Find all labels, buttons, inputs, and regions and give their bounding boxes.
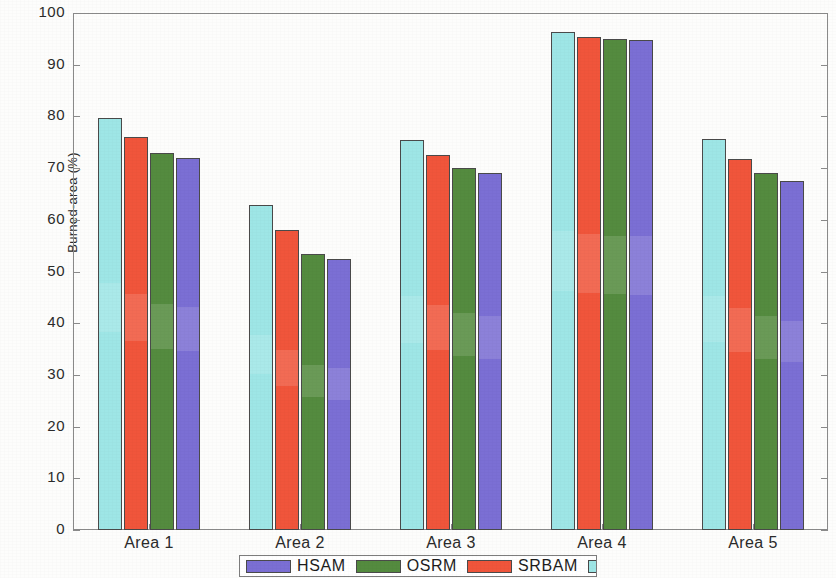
bar-chart-figure: Burned-area (%) 0102030405060708090100 A… xyxy=(0,0,836,578)
chart-legend: HSAMOSRMSRBAMSTI xyxy=(239,555,597,577)
y-tick-mark-right xyxy=(821,478,828,479)
y-tick-mark xyxy=(73,13,80,14)
bar-sti-area-5 xyxy=(702,139,726,530)
bar-osrm-area-5 xyxy=(754,173,778,530)
legend-swatch-hsam-icon xyxy=(246,560,291,573)
y-tick-mark-right xyxy=(821,13,828,14)
y-tick-mark-right xyxy=(821,65,828,66)
legend-item-srbam[interactable]: SRBAM xyxy=(467,557,578,575)
bar-srbam-area-1 xyxy=(124,137,148,530)
legend-label: HSAM xyxy=(297,557,346,575)
legend-item-hsam[interactable]: HSAM xyxy=(246,557,346,575)
bar-hsam-area-3 xyxy=(478,173,502,530)
y-tick-mark xyxy=(73,375,80,376)
x-tick-label-area-3: Area 3 xyxy=(381,534,521,552)
y-tick-label: 10 xyxy=(25,468,65,485)
y-tick-label: 60 xyxy=(25,210,65,227)
bar-hsam-area-1 xyxy=(176,158,200,530)
y-tick-label: 0 xyxy=(25,520,65,537)
y-tick-label: 50 xyxy=(25,262,65,279)
y-tick-mark-right xyxy=(821,375,828,376)
bar-srbam-area-3 xyxy=(426,155,450,530)
y-tick-mark xyxy=(73,427,80,428)
bar-sti-area-1 xyxy=(98,118,122,530)
y-tick-mark xyxy=(73,323,80,324)
y-tick-label: 40 xyxy=(25,313,65,330)
y-tick-label: 90 xyxy=(25,55,65,72)
y-tick-mark-right xyxy=(821,116,828,117)
y-tick-mark-right xyxy=(821,530,828,531)
y-tick-mark-right xyxy=(821,427,828,428)
y-tick-label: 70 xyxy=(25,158,65,175)
y-tick-label: 30 xyxy=(25,365,65,382)
bar-hsam-area-4 xyxy=(629,40,653,530)
bar-srbam-area-5 xyxy=(728,159,752,530)
x-tick-label-area-2: Area 2 xyxy=(230,534,370,552)
y-tick-mark xyxy=(73,478,80,479)
bar-sti-area-3 xyxy=(400,140,424,530)
bar-sti-area-2 xyxy=(249,205,273,530)
y-tick-mark xyxy=(73,530,80,531)
y-tick-mark xyxy=(73,65,80,66)
x-tick-label-area-4: Area 4 xyxy=(532,534,672,552)
y-tick-mark-right xyxy=(821,168,828,169)
legend-label: SRBAM xyxy=(518,557,578,575)
legend-label: OSRM xyxy=(407,557,457,575)
y-tick-label: 80 xyxy=(25,106,65,123)
bar-hsam-area-2 xyxy=(327,259,351,530)
y-tick-label: 20 xyxy=(25,417,65,434)
y-tick-label: 100 xyxy=(25,3,65,20)
bar-srbam-area-4 xyxy=(577,37,601,530)
y-tick-mark-right xyxy=(821,272,828,273)
y-tick-mark xyxy=(73,272,80,273)
y-tick-mark xyxy=(73,116,80,117)
bar-srbam-area-2 xyxy=(275,230,299,530)
y-tick-mark xyxy=(73,168,80,169)
legend-item-osrm[interactable]: OSRM xyxy=(356,557,457,575)
y-tick-mark xyxy=(73,220,80,221)
bar-osrm-area-4 xyxy=(603,39,627,530)
bar-osrm-area-1 xyxy=(150,153,174,530)
x-tick-label-area-5: Area 5 xyxy=(683,534,823,552)
legend-swatch-osrm-icon xyxy=(356,560,401,573)
legend-item-sti[interactable]: STI xyxy=(588,557,597,575)
x-tick-label-area-1: Area 1 xyxy=(79,534,219,552)
bar-sti-area-4 xyxy=(551,32,575,530)
bar-osrm-area-2 xyxy=(301,254,325,530)
y-tick-mark-right xyxy=(821,220,828,221)
legend-swatch-srbam-icon xyxy=(467,560,512,573)
legend-swatch-sti-icon xyxy=(588,560,597,573)
bar-osrm-area-3 xyxy=(452,168,476,530)
y-tick-mark-right xyxy=(821,323,828,324)
bar-hsam-area-5 xyxy=(780,181,804,530)
